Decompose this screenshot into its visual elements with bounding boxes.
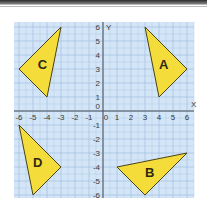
x-tick-label: 6	[185, 113, 190, 122]
y-tick-label: -2	[93, 135, 101, 144]
x-tick-label: -3	[57, 113, 65, 122]
y-tick-label: 1	[96, 93, 101, 102]
x-tick-label: -4	[43, 113, 51, 122]
x-tick-label: 5	[171, 113, 176, 122]
x-tick-label: 3	[143, 113, 148, 122]
x-tick-label: 0	[104, 113, 109, 122]
y-tick-label: -4	[93, 163, 101, 172]
x-tick-label: -5	[29, 113, 37, 122]
y-tick-label: 0	[96, 102, 101, 111]
x-axis-label: X	[191, 100, 197, 109]
y-tick-label: -3	[93, 149, 101, 158]
y-tick-label: 5	[96, 37, 101, 46]
y-tick-label: -5	[93, 177, 101, 186]
triangle-label-d: D	[33, 155, 42, 170]
y-tick-label: -6	[93, 191, 101, 200]
triangle-label-c: C	[38, 57, 48, 72]
triangle-label-a: A	[159, 57, 169, 72]
y-tick-label: 3	[96, 65, 101, 74]
x-tick-label: -6	[15, 113, 23, 122]
triangle-label-b: B	[145, 165, 154, 180]
x-tick-label: 2	[129, 113, 134, 122]
x-tick-label: 4	[157, 113, 162, 122]
y-tick-label: 6	[96, 23, 101, 32]
x-tick-label: 1	[115, 113, 120, 122]
coordinate-plane: ABCD -6-5-4-3-2-101234566543210-1-2-3-4-…	[0, 0, 207, 210]
y-axis-label: Y	[106, 23, 112, 32]
y-tick-label: -1	[93, 121, 101, 130]
y-tick-label: 4	[96, 51, 101, 60]
x-tick-label: -2	[71, 113, 79, 122]
y-tick-label: 2	[96, 79, 101, 88]
